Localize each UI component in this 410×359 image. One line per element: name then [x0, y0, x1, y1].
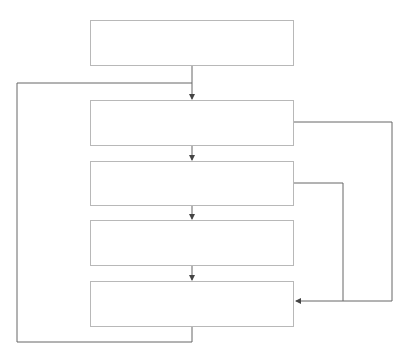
- flow-box-4: [90, 220, 294, 266]
- right-inner-loop-line: [293, 183, 343, 301]
- flow-box-5: [90, 281, 294, 327]
- flow-box-3: [90, 161, 294, 206]
- flow-box-1: [90, 20, 294, 66]
- flow-box-2: [90, 100, 294, 146]
